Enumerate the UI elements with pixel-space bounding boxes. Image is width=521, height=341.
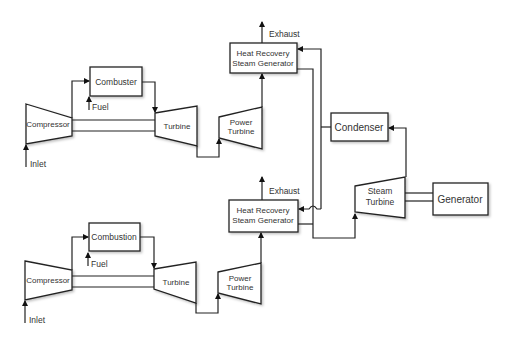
fuel-input-bottom: Fuel	[88, 253, 108, 269]
power-turbine-bottom-label-2: Turbine	[227, 283, 254, 292]
steam-turbine-label-2: Turbine	[366, 197, 395, 207]
hrsg-top-label-1: Heat Recovery	[237, 49, 290, 58]
inlet-top-label: Inlet	[30, 159, 47, 169]
power-turbine-top: Power Turbine	[219, 107, 262, 149]
shaft-top	[72, 120, 155, 131]
turbine-top: Turbine	[155, 106, 197, 146]
inlet-bottom: Inlet	[25, 301, 46, 325]
flow-compressor-to-combustor-bottom	[72, 237, 88, 270]
hrsg-bottom-label-1: Heat Recovery	[237, 206, 290, 215]
flow-combustor-to-turbine-bottom	[140, 237, 154, 268]
flow-steam-turbine-to-condenser	[389, 128, 406, 177]
compressor-top: Compressor	[26, 104, 72, 144]
gas-turbine-train-top: Compressor Turbine Combuster Fuel Inlet	[26, 22, 300, 169]
flow-combustor-to-turbine-top	[142, 82, 155, 112]
turbine-bottom: Turbine	[154, 262, 196, 303]
condenser: Condenser	[331, 113, 388, 141]
power-turbine-top-label-1: Power	[230, 118, 253, 127]
generator-label: Generator	[437, 194, 483, 205]
power-turbine-bottom-label-1: Power	[229, 274, 252, 283]
inlet-top: Inlet	[26, 145, 47, 169]
steam-line-hrsg-top-outlet	[297, 69, 355, 238]
hrsg-top-label-2: Steam Generator	[232, 59, 294, 68]
shaft-generator	[405, 193, 433, 201]
hrsg-bottom-label-2: Steam Generator	[232, 216, 294, 225]
condensate-line-to-hrsg-top	[298, 49, 321, 209]
turbine-bottom-label: Turbine	[163, 278, 190, 287]
combustor-top-label: Combuster	[95, 77, 137, 87]
fuel-bottom-label: Fuel	[91, 259, 108, 269]
flow-turbine-to-power-turbine-top	[197, 139, 219, 157]
turbine-top-label: Turbine	[164, 122, 191, 131]
flow-compressor-to-combustor-top	[72, 81, 89, 118]
fuel-top-label: Fuel	[92, 102, 109, 112]
exhaust-bottom-label: Exhaust	[269, 186, 300, 196]
compressor-top-label: Compressor	[26, 120, 70, 129]
hrsg-bottom: Heat Recovery Steam Generator	[229, 200, 298, 232]
exhaust-bottom: Exhaust	[262, 177, 300, 200]
compressor-bottom-label: Compressor	[26, 276, 70, 285]
combustor-top: Combuster	[90, 67, 142, 96]
exhaust-top-label: Exhaust	[269, 29, 300, 39]
generator: Generator	[433, 183, 488, 215]
steam-cycle: Condenser Steam Turbine Generator	[297, 49, 488, 238]
combustor-bottom-label: Combustion	[91, 232, 137, 242]
hrsg-top: Heat Recovery Steam Generator	[230, 43, 297, 73]
combustor-bottom: Combustion	[89, 223, 140, 251]
condensate-line-to-hrsg-bottom	[299, 206, 321, 209]
flow-turbine-to-power-turbine-bottom	[196, 294, 218, 313]
steam-turbine-label-1: Steam	[368, 186, 393, 196]
exhaust-top: Exhaust	[262, 22, 300, 43]
steam-turbine: Steam Turbine	[355, 177, 405, 218]
power-turbine-bottom: Power Turbine	[218, 263, 261, 304]
power-turbine-top-label-2: Turbine	[228, 127, 255, 136]
fuel-input-top: Fuel	[89, 97, 109, 112]
combined-cycle-diagram: Compressor Turbine Combuster Fuel Inlet	[0, 0, 521, 341]
inlet-bottom-label: Inlet	[29, 315, 46, 325]
condenser-label: Condenser	[335, 122, 385, 133]
gas-turbine-train-bottom: Compressor Turbine Combustion Fuel Inlet…	[25, 177, 300, 325]
shaft-bottom	[72, 276, 154, 287]
compressor-bottom: Compressor	[25, 261, 72, 300]
